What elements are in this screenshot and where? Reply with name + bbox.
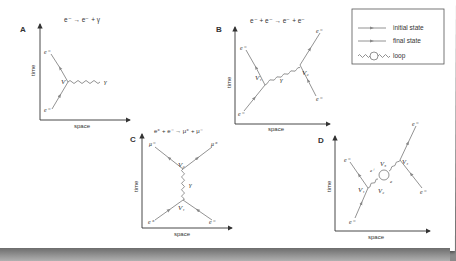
photon-wave — [68, 81, 100, 84]
loop-particle-label: e⁺ — [370, 168, 375, 173]
particle-label: e⁻ — [420, 189, 427, 195]
panel-a: A e⁻ → e⁻ + γ time space V γ e⁻ e⁻ — [20, 16, 130, 129]
photon-wave-1 — [368, 179, 378, 188]
reaction-equation: e⁺ + e⁻ → μ⁺ + μ⁻ — [154, 128, 203, 134]
particle-label: e⁻ — [240, 45, 247, 51]
particle-label: e⁺ — [148, 219, 155, 225]
reaction-equation: e⁻ + e⁻ → e⁻ + e⁻ — [250, 17, 305, 24]
vertex-2-label: V₂ — [302, 69, 309, 77]
legend-item-initial-state: initial state — [393, 24, 424, 31]
outgoing-muon-plus-line — [183, 147, 212, 169]
time-axis-label: time — [326, 180, 332, 192]
incoming-electron-line — [52, 82, 68, 109]
panel-b: B e⁻ + e⁻ → e⁻ + e⁻ time space V₁ V₂ γ e… — [216, 17, 330, 132]
particle-label: e⁻ — [344, 157, 351, 163]
panel-d: D time space V₁ V₂ V₃ V₄ e⁺ e⁻ e⁻ e⁻ e⁻ … — [318, 121, 430, 240]
time-axis-label: time — [30, 64, 36, 76]
loop-particle-label: e⁻ — [390, 179, 395, 184]
panel-label: C — [130, 135, 136, 144]
space-axis-label: space — [268, 126, 285, 132]
vertex-3-label: V₃ — [380, 160, 386, 167]
panel-label: D — [318, 136, 324, 145]
incoming-electron-line — [183, 200, 212, 220]
photon-label: γ — [280, 76, 283, 84]
incoming-particle-label: e⁻ — [44, 107, 51, 113]
particle-label: e⁻ — [209, 219, 216, 225]
vertex-label: V — [61, 78, 66, 86]
legend-item-loop: loop — [393, 52, 406, 60]
outgoing-electron-line — [51, 54, 68, 82]
particle-label: e⁻ — [349, 219, 356, 225]
particle-label: μ⁺ — [211, 141, 218, 147]
vertex-1-label: V₁ — [255, 74, 262, 82]
electron-loop — [379, 170, 389, 180]
photon-label: γ — [189, 181, 192, 189]
particle-label: e⁻ — [412, 121, 419, 127]
legend: initial state final state loop — [352, 9, 444, 64]
panel-label: A — [20, 25, 26, 34]
space-axis-label: space — [74, 123, 91, 129]
outgoing-particle-label: e⁻ — [44, 49, 51, 55]
vertex-1-label: V₁ — [358, 186, 365, 194]
space-axis-label: space — [174, 231, 191, 237]
legend-item-final-state: final state — [393, 37, 421, 44]
vertex-4-label: V₄ — [402, 158, 409, 165]
outgoing-electron-2 — [300, 33, 320, 65]
panel-c: C e⁺ + e⁻ → μ⁺ + μ⁻ time space V₂ V₁ γ e… — [130, 128, 232, 237]
particle-label: e⁻ — [316, 96, 323, 102]
vertex-2-label: V₂ — [178, 161, 185, 169]
particle-label: e⁻ — [316, 28, 323, 34]
photon-wave — [182, 169, 185, 200]
reaction-equation: e⁻ → e⁻ + γ — [64, 16, 101, 24]
time-axis-label: time — [133, 180, 139, 192]
photon-wave-2 — [389, 160, 400, 171]
particle-label: e⁻ — [238, 111, 245, 117]
particle-label: μ⁻ — [149, 141, 156, 147]
vertex-1-label: V₁ — [178, 204, 185, 212]
outgoing-electron-2 — [400, 126, 416, 160]
vertex-2-label: V₂ — [378, 187, 385, 194]
panel-label: B — [216, 25, 222, 34]
incoming-electron-1 — [244, 85, 265, 111]
time-axis-label: time — [226, 76, 232, 88]
outgoing-electron-1 — [350, 162, 368, 188]
space-axis-label: space — [368, 234, 385, 240]
photon-label: γ — [104, 78, 107, 86]
